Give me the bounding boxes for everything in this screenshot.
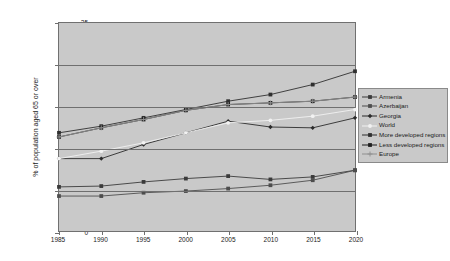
series-line: [59, 170, 355, 187]
legend-item-world[interactable]: World: [361, 121, 445, 131]
series-layer: [59, 23, 355, 231]
series-point: [142, 180, 146, 184]
x-axis-tick-label: 2005: [208, 236, 248, 243]
series-azerbaijan: [57, 168, 357, 198]
legend-item-less-developed-regions[interactable]: Less developed regions: [361, 140, 445, 150]
legend-label: Georgia: [379, 113, 401, 119]
y-axis-tick: [55, 191, 59, 192]
legend-swatch-icon: [362, 140, 377, 149]
series-point: [311, 126, 315, 130]
x-axis-tick: [272, 231, 273, 235]
chart-container: % of population aged 65 or over 05101520…: [0, 0, 450, 261]
legend-label: Europe: [379, 151, 399, 157]
gridline-y: [59, 107, 355, 108]
series-point: [184, 131, 188, 135]
legend-label: World: [379, 122, 395, 128]
legend-item-georgia[interactable]: Georgia: [361, 111, 445, 121]
series-point: [353, 69, 357, 73]
x-axis-tick-label: 2000: [166, 236, 206, 243]
legend-item-azerbaijan[interactable]: Azerbaijan: [361, 102, 445, 112]
y-axis-title: % of population aged 65 or over: [32, 42, 39, 212]
series-point: [311, 83, 315, 87]
y-axis-tick: [55, 107, 59, 108]
series-point: [57, 194, 61, 198]
legend-item-europe[interactable]: Europe: [361, 150, 445, 160]
x-axis-tick-label: 1985: [38, 236, 78, 243]
x-axis-tick: [59, 231, 60, 235]
legend-swatch-icon: [362, 102, 377, 111]
series-point: [353, 168, 357, 172]
legend-label: Azerbaijan: [379, 103, 408, 109]
plot-area: [58, 22, 356, 232]
series-point: [311, 178, 315, 182]
gridline-y: [59, 191, 355, 192]
legend-item-more-developed-regions[interactable]: More developed regions: [361, 130, 445, 140]
legend-swatch-icon: [362, 92, 377, 101]
series-point: [269, 183, 273, 187]
series-point: [57, 185, 61, 189]
series-point: [311, 175, 315, 179]
series-point: [269, 118, 273, 122]
y-axis-tick: [55, 23, 59, 24]
series-point: [268, 125, 272, 129]
legend-swatch-icon: [362, 131, 377, 140]
x-axis-tick: [187, 231, 188, 235]
x-axis-tick: [144, 231, 145, 235]
series-point: [269, 178, 273, 182]
series-line: [59, 71, 355, 133]
chart-legend: ArmeniaAzerbaijanGeorgiaWorldMore develo…: [358, 88, 448, 163]
series-point: [142, 141, 146, 145]
x-axis-tick-label: 1990: [81, 236, 121, 243]
series-point: [57, 131, 61, 135]
y-axis-tick: [55, 65, 59, 66]
series-point: [353, 108, 357, 112]
series-point: [269, 93, 273, 97]
legend-label: Armenia: [379, 94, 402, 100]
legend-swatch-icon: [362, 121, 377, 130]
series-point: [226, 187, 230, 191]
x-axis-tick-label: 2020: [336, 236, 376, 243]
series-point: [99, 156, 103, 160]
series-line: [59, 118, 355, 159]
legend-item-armenia[interactable]: Armenia: [361, 92, 445, 102]
x-axis-tick-label: 2010: [251, 236, 291, 243]
series-point: [99, 184, 103, 188]
legend-label: Less developed regions: [379, 142, 444, 148]
x-axis-tick: [314, 231, 315, 235]
legend-swatch-icon: [362, 150, 377, 159]
series-line: [59, 97, 355, 137]
y-axis-title-wrapper: % of population aged 65 or over: [14, 22, 34, 232]
series-point: [57, 157, 61, 161]
series-line: [59, 170, 355, 196]
x-axis-tick: [357, 231, 358, 235]
series-point: [184, 177, 188, 181]
legend-label: More developed regions: [379, 132, 445, 138]
x-axis-tick-label: 1995: [123, 236, 163, 243]
series-line: [59, 110, 355, 159]
x-axis-tick-label: 2015: [293, 236, 333, 243]
x-axis-tick: [102, 231, 103, 235]
series-point: [99, 194, 103, 198]
series-world: [57, 108, 357, 161]
x-axis-tick: [229, 231, 230, 235]
series-georgia: [57, 116, 357, 161]
legend-swatch-icon: [362, 111, 377, 120]
series-point: [226, 174, 230, 178]
gridline-y: [59, 149, 355, 150]
series-point: [353, 116, 357, 120]
series-point: [311, 114, 315, 118]
y-axis-tick: [55, 149, 59, 150]
gridline-y: [59, 65, 355, 66]
series-line: [59, 97, 355, 137]
series-point: [226, 121, 230, 125]
